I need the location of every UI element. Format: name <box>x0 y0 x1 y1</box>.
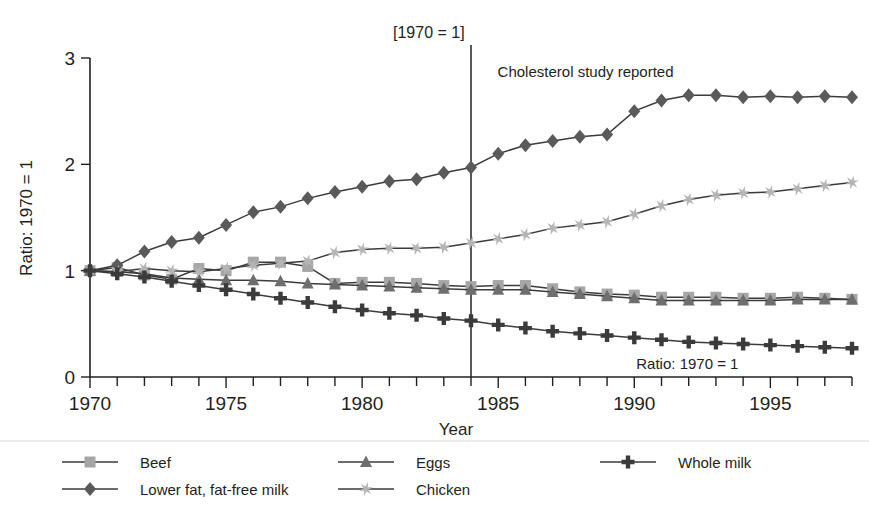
y-axis-tick-label: 0 <box>64 367 75 388</box>
y-axis-tick-label: 3 <box>64 48 75 69</box>
x-axis-tick-label: 1995 <box>749 393 791 414</box>
data-point-marker <box>655 333 668 346</box>
data-point-marker <box>764 89 776 103</box>
data-point-marker <box>220 283 233 296</box>
data-point-marker <box>601 329 614 342</box>
data-point-marker <box>465 161 477 175</box>
legend-entry-label: Lower fat, fat-free milk <box>140 481 289 498</box>
x-axis-title: Year <box>439 420 474 439</box>
y-axis-tick-label: 2 <box>64 154 75 175</box>
legend-entry-label: Eggs <box>416 454 450 471</box>
x-axis-tick-label: 1980 <box>341 393 383 414</box>
data-point-marker <box>247 288 260 301</box>
legend-entry[interactable]: Whole milk <box>600 454 752 471</box>
data-point-marker <box>846 342 859 355</box>
data-point-marker <box>656 94 668 108</box>
data-point-marker <box>193 231 205 245</box>
data-point-marker <box>275 200 287 214</box>
data-point-marker <box>792 90 804 104</box>
data-point-marker <box>627 207 641 221</box>
data-point-marker <box>546 325 559 338</box>
data-point-marker <box>438 166 450 180</box>
data-point-marker <box>328 300 341 313</box>
legend-entry-label: Beef <box>140 454 172 471</box>
data-point-marker <box>574 130 586 144</box>
legend-entry[interactable]: Eggs <box>338 454 450 471</box>
data-point-marker <box>166 235 178 249</box>
data-point-marker <box>764 339 777 352</box>
data-point-marker <box>410 309 423 322</box>
event-annotation: Cholesterol study reported <box>498 63 674 80</box>
legend-entry-label: Whole milk <box>678 454 752 471</box>
data-point-marker <box>846 90 858 104</box>
plus-marker-icon <box>622 456 635 469</box>
legend-entry[interactable]: Beef <box>62 454 172 471</box>
data-point-marker <box>437 312 450 325</box>
data-point-marker <box>465 314 478 327</box>
data-point-marker <box>329 185 341 199</box>
data-point-marker <box>301 296 314 309</box>
data-point-marker <box>247 205 259 219</box>
x-axis-tick-label: 1985 <box>477 393 519 414</box>
data-point-marker <box>709 336 722 349</box>
data-point-marker <box>383 307 396 320</box>
inplot-ratio-note: Ratio: 1970 = 1 <box>636 355 738 372</box>
data-point-marker <box>492 318 505 331</box>
data-point-marker <box>683 88 695 102</box>
data-point-marker <box>492 147 504 161</box>
data-point-marker <box>247 274 259 286</box>
y-axis-title: Ratio: 1970 = 1 <box>17 160 36 276</box>
data-point-marker <box>519 322 532 335</box>
data-point-marker <box>710 88 722 102</box>
x-axis-tick-label: 1975 <box>205 393 247 414</box>
data-point-marker <box>138 245 150 259</box>
bracket-note: [1970 = 1] <box>393 24 465 41</box>
data-point-marker <box>818 341 831 354</box>
y-axis-tick-label: 1 <box>64 261 75 282</box>
data-point-marker <box>383 174 395 188</box>
data-point-marker <box>628 331 641 344</box>
data-point-marker <box>302 191 314 205</box>
square-marker-icon <box>85 457 96 468</box>
data-point-marker <box>737 90 749 104</box>
data-point-marker <box>791 340 804 353</box>
data-point-marker <box>547 134 559 148</box>
data-point-marker <box>682 335 695 348</box>
data-point-marker <box>274 292 287 305</box>
data-point-marker <box>220 218 232 232</box>
data-point-marker <box>356 180 368 194</box>
data-point-marker <box>411 172 423 186</box>
data-point-marker <box>356 304 369 317</box>
legend-entry-label: Chicken <box>416 481 470 498</box>
data-point-marker <box>819 89 831 103</box>
data-point-marker <box>601 128 613 142</box>
data-point-marker <box>628 104 640 118</box>
data-point-marker <box>519 138 531 152</box>
data-point-marker <box>573 327 586 340</box>
legend-entry[interactable]: Lower fat, fat-free milk <box>62 481 289 498</box>
data-point-marker <box>682 192 696 206</box>
x-axis-tick-label: 1970 <box>69 393 111 414</box>
chart-figure: 3210Ratio: 1970 = 1197019751980198519901… <box>0 0 869 514</box>
data-point-marker <box>655 199 669 213</box>
diamond-marker-icon <box>84 482 96 496</box>
x-axis-tick-label: 1990 <box>613 393 655 414</box>
chart-canvas: 3210Ratio: 1970 = 1197019751980198519901… <box>0 0 869 514</box>
data-point-marker <box>737 338 750 351</box>
data-point-marker <box>192 279 205 292</box>
legend-entry[interactable]: Chicken <box>338 481 470 498</box>
